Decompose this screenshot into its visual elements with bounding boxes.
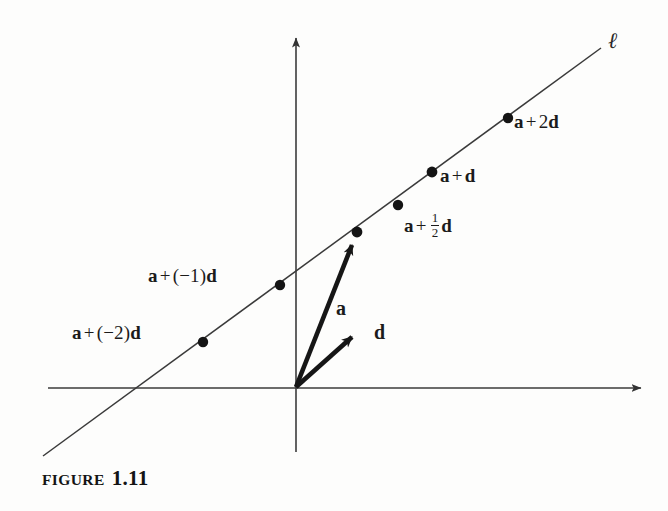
label-a-plus-2d-coef: 2 (539, 111, 549, 132)
label-a-plus-2d: a+2d (514, 112, 559, 131)
label-a-plus-d-op: + (450, 165, 465, 186)
vector-a-label: a (336, 298, 346, 318)
vector-d-label: d (374, 322, 385, 342)
label-a-plus-half-d-a: a (404, 215, 414, 236)
label-a-minus-2d: a+(−2)d (72, 323, 141, 342)
fraction-denominator: 2 (431, 225, 440, 240)
line-ell (43, 48, 601, 456)
label-a-plus-d-a: a (440, 165, 450, 186)
label-a-plus-2d-op: + (524, 111, 539, 132)
label-a-plus-2d-a: a (514, 111, 524, 132)
label-a-minus-1d-coef: (−1) (173, 265, 207, 286)
point-a (352, 227, 363, 238)
label-a-minus-1d: a+(−1)d (148, 266, 217, 285)
figure-1-11: ℓ a+2d a+d a+12d a+(−1)d a+(−2)d a d FIG… (0, 0, 668, 511)
label-a-plus-2d-d: d (548, 111, 559, 132)
figure-drawing-canvas (0, 0, 668, 511)
label-a-minus-2d-d: d (130, 322, 141, 343)
point-a-plus-d (427, 167, 438, 178)
label-a-minus-2d-coef: (−2) (97, 322, 131, 343)
label-a-plus-half-d-d: d (441, 215, 452, 236)
point-a-minus-1d (275, 280, 285, 290)
fraction-numerator: 1 (431, 211, 440, 225)
fraction-one-half: 12 (431, 211, 440, 240)
label-a-plus-d: a+d (440, 166, 475, 185)
point-a-plus-half-d (393, 200, 403, 210)
label-a-minus-2d-op: + (82, 322, 97, 343)
label-a-plus-half-d-op: + (414, 215, 429, 236)
label-a-plus-d-d: d (465, 165, 476, 186)
line-ell-label: ℓ (608, 30, 617, 52)
figure-caption-word: FIGURE (42, 471, 105, 488)
label-a-minus-1d-d: d (206, 265, 217, 286)
label-a-minus-1d-op: + (158, 265, 173, 286)
label-a-minus-1d-a: a (148, 265, 158, 286)
figure-caption-number: 1.11 (112, 466, 149, 490)
label-a-minus-2d-a: a (72, 322, 82, 343)
figure-caption: FIGURE1.11 (42, 466, 148, 491)
point-a-plus-2d (503, 113, 513, 123)
label-a-plus-half-d: a+12d (404, 212, 452, 241)
point-a-minus-2d (198, 337, 208, 347)
